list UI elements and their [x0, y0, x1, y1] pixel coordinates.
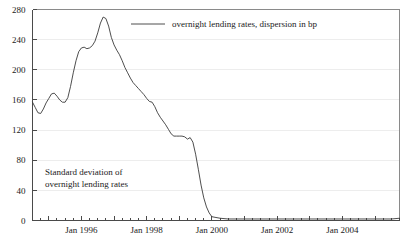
y-tick-label: 240: [12, 35, 26, 45]
y-tick-label: 160: [12, 95, 26, 105]
y-tick-label: 200: [12, 65, 26, 75]
chart-legend: overnight lending rates, dispersion in b…: [131, 19, 317, 29]
legend-label: overnight lending rates, dispersion in b…: [172, 19, 317, 29]
y-axis-ticks: [33, 10, 37, 221]
annotation-line-1: Standard deviation of: [45, 167, 122, 177]
x-tick-label: Jan 1998: [131, 225, 164, 235]
x-tick-label: Jan 2000: [196, 225, 229, 235]
x-tick-label: Jan 2004: [326, 225, 359, 235]
y-tick-label: 40: [17, 186, 27, 196]
annotation-line-2: overnight lending rates: [45, 179, 128, 189]
y-tick-label: 80: [17, 155, 27, 165]
y-axis-tick-labels: 04080120160200240280: [12, 5, 26, 226]
x-tick-label: Jan 2002: [261, 225, 293, 235]
x-axis-ticks: [33, 216, 400, 221]
chart-annotation: Standard deviation ofovernight lending r…: [45, 167, 128, 189]
x-axis-tick-labels: Jan 1996Jan 1998Jan 2000Jan 2002Jan 2004: [65, 225, 359, 235]
y-tick-label: 0: [21, 216, 26, 226]
line-chart: 04080120160200240280 Jan 1996Jan 1998Jan…: [0, 0, 407, 247]
gridlines: [33, 10, 400, 191]
chart-figure: 04080120160200240280 Jan 1996Jan 1998Jan…: [0, 0, 407, 247]
x-tick-label: Jan 1996: [65, 225, 98, 235]
y-tick-label: 120: [12, 125, 26, 135]
y-tick-label: 280: [12, 5, 26, 15]
